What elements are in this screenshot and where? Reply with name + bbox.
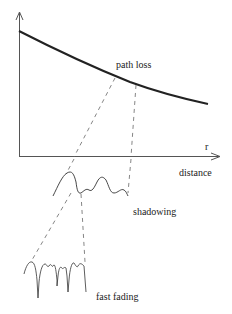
path-loss-zoom-lines: [74, 78, 136, 157]
distance-label: distance: [179, 167, 212, 178]
fast-fading-zoom-lines: [32, 193, 85, 262]
shadowing-link-lines: [66, 159, 131, 193]
path-loss-curve: [19, 31, 208, 104]
path-loss-label: path loss: [116, 59, 151, 70]
axes: [16, 12, 220, 160]
fading-diagram: path loss r distance shadowing fast fadi…: [0, 0, 232, 314]
fast-fading-label: fast fading: [96, 291, 139, 302]
shadowing-label: shadowing: [133, 206, 176, 217]
shadowing-curve: [53, 172, 128, 196]
fast-fading-curve: [24, 262, 86, 298]
r-axis-label: r: [205, 141, 209, 152]
